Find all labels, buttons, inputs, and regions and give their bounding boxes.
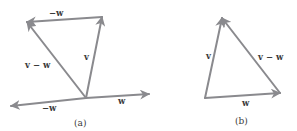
caption-a: (a) (74, 118, 86, 128)
label-v: v (83, 52, 90, 62)
label-v: v (205, 51, 212, 61)
label-top-neg-w: −w (49, 8, 64, 18)
vector-diagram: −w v v − w −w w (a) v v − w w (b) (0, 0, 297, 131)
label-w: w (241, 98, 250, 108)
label-v-minus-w: v − w (24, 60, 51, 70)
vector-top-neg-w-arrow (27, 17, 102, 22)
panel-a: −w v v − w −w w (a) (11, 8, 149, 128)
caption-b: (b) (235, 116, 248, 126)
panel-b: v v − w w (b) (205, 18, 284, 126)
label-bottom-neg-w: −w (42, 103, 57, 113)
label-w: w (117, 96, 126, 106)
label-v-minus-w: v − w (257, 52, 284, 62)
